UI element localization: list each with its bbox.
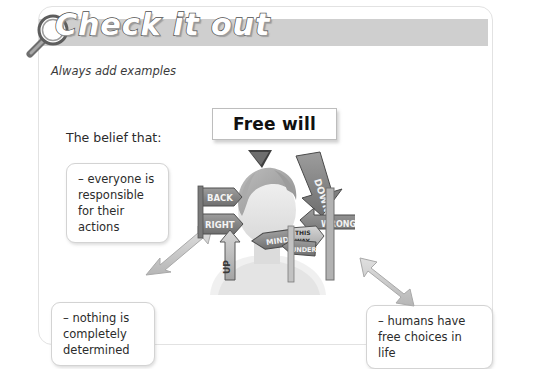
note-everyone: – everyone is responsible for their acti…	[66, 163, 169, 243]
free-will-box: Free will	[212, 108, 337, 140]
belief-label: The belief that:	[66, 130, 161, 145]
svg-text:RIGHT: RIGHT	[205, 220, 235, 230]
sign-down: DOWN	[296, 152, 342, 216]
note-humans: – humans have free choices in life	[366, 305, 493, 369]
svg-text:UP: UP	[222, 260, 232, 274]
note-nothing: – nothing is completely determined	[51, 302, 155, 366]
svg-text:BACK: BACK	[207, 193, 233, 203]
sign-right: RIGHT	[200, 214, 243, 234]
sign-back: BACK	[202, 188, 242, 206]
svg-text:UNDER: UNDER	[291, 246, 317, 254]
person-direction-signs-illustration: BACK RIGHT UP DOWN WRONG MIND	[190, 150, 355, 295]
sign-under: UNDER	[282, 240, 317, 256]
svg-text:THIS: THIS	[295, 229, 311, 236]
slide-canvas: Check it out Always add examples The bel…	[0, 0, 537, 369]
page-title: Check it out	[55, 10, 270, 40]
subtitle: Always add examples	[51, 64, 176, 78]
free-will-label: Free will	[233, 114, 316, 134]
